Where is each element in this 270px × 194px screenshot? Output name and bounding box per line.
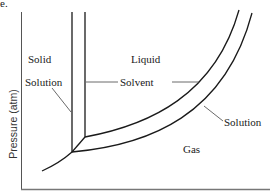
triple-point-connector bbox=[72, 137, 85, 152]
leader-solution-right bbox=[204, 106, 223, 121]
solution-vaporization-curve bbox=[72, 13, 252, 152]
region-gas: Gas bbox=[183, 143, 200, 155]
callout-solvent: Solvent bbox=[120, 76, 154, 88]
callout-solution-left: Solution bbox=[25, 76, 62, 88]
callout-solution-right: Solution bbox=[224, 116, 261, 128]
region-liquid: Liquid bbox=[131, 53, 160, 65]
region-solid: Solid bbox=[28, 53, 51, 65]
y-axis-label: Pressure (atm) bbox=[7, 89, 19, 159]
sublimation-curve bbox=[42, 152, 72, 171]
phase-diagram-plot bbox=[0, 0, 270, 194]
solvent-vaporization-curve bbox=[85, 10, 239, 137]
leader-solution-left bbox=[52, 88, 71, 112]
